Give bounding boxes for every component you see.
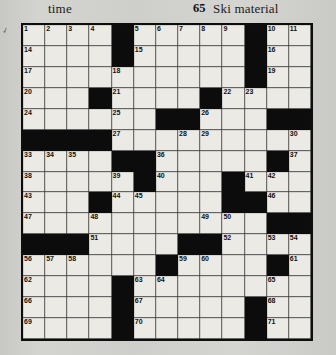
- grid-cell[interactable]: 65: [267, 276, 289, 297]
- grid-cell[interactable]: [289, 276, 311, 297]
- grid-cell[interactable]: [134, 234, 156, 255]
- grid-cell[interactable]: 60: [200, 255, 222, 276]
- grid-cell[interactable]: [178, 318, 200, 339]
- grid-cell[interactable]: 30: [289, 130, 311, 151]
- grid-cell[interactable]: [45, 109, 67, 130]
- grid-cell[interactable]: [45, 88, 67, 109]
- grid-cell[interactable]: 21: [112, 88, 134, 109]
- grid-cell[interactable]: [112, 234, 134, 255]
- grid-cell[interactable]: 34: [45, 151, 67, 172]
- grid-cell[interactable]: [134, 67, 156, 88]
- grid-cell[interactable]: [178, 172, 200, 193]
- grid-cell[interactable]: [222, 67, 244, 88]
- grid-cell[interactable]: 19: [267, 67, 289, 88]
- grid-cell[interactable]: [200, 46, 222, 67]
- grid-cell[interactable]: [67, 276, 89, 297]
- grid-cell[interactable]: [178, 192, 200, 213]
- grid-cell[interactable]: 6: [156, 25, 178, 46]
- grid-cell[interactable]: 63: [134, 276, 156, 297]
- grid-cell[interactable]: 8: [200, 25, 222, 46]
- grid-cell[interactable]: 2: [45, 25, 67, 46]
- grid-cell[interactable]: [89, 255, 111, 276]
- grid-cell[interactable]: [222, 297, 244, 318]
- grid-cell[interactable]: [67, 318, 89, 339]
- grid-cell[interactable]: 58: [67, 255, 89, 276]
- grid-cell[interactable]: [178, 67, 200, 88]
- grid-cell[interactable]: [245, 213, 267, 234]
- grid-cell[interactable]: 10: [267, 25, 289, 46]
- grid-cell[interactable]: 20: [23, 88, 45, 109]
- grid-cell[interactable]: 18: [112, 67, 134, 88]
- grid-cell[interactable]: [200, 297, 222, 318]
- grid-cell[interactable]: [134, 213, 156, 234]
- grid-cell[interactable]: [178, 151, 200, 172]
- grid-cell[interactable]: [89, 276, 111, 297]
- grid-cell[interactable]: [156, 297, 178, 318]
- grid-cell[interactable]: 15: [134, 46, 156, 67]
- grid-cell[interactable]: [245, 234, 267, 255]
- grid-cell[interactable]: 61: [289, 255, 311, 276]
- grid-cell[interactable]: 26: [200, 109, 222, 130]
- grid-cell[interactable]: [222, 255, 244, 276]
- grid-cell[interactable]: 38: [23, 172, 45, 193]
- grid-cell[interactable]: 27: [112, 130, 134, 151]
- grid-cell[interactable]: 48: [89, 213, 111, 234]
- grid-cell[interactable]: 43: [23, 192, 45, 213]
- grid-cell[interactable]: [45, 46, 67, 67]
- grid-cell[interactable]: [134, 130, 156, 151]
- grid-cell[interactable]: [45, 192, 67, 213]
- grid-cell[interactable]: 47: [23, 213, 45, 234]
- grid-cell[interactable]: 25: [112, 109, 134, 130]
- grid-cell[interactable]: [67, 46, 89, 67]
- grid-cell[interactable]: [156, 318, 178, 339]
- grid-cell[interactable]: 70: [134, 318, 156, 339]
- grid-cell[interactable]: [89, 318, 111, 339]
- grid-cell[interactable]: [267, 88, 289, 109]
- grid-cell[interactable]: 17: [23, 67, 45, 88]
- grid-cell[interactable]: [45, 276, 67, 297]
- grid-cell[interactable]: 24: [23, 109, 45, 130]
- grid-cell[interactable]: 28: [178, 130, 200, 151]
- grid-cell[interactable]: [156, 234, 178, 255]
- grid-cell[interactable]: [67, 88, 89, 109]
- grid-cell[interactable]: [45, 172, 67, 193]
- grid-cell[interactable]: [245, 109, 267, 130]
- grid-cell[interactable]: 39: [112, 172, 134, 193]
- grid-cell[interactable]: [178, 276, 200, 297]
- grid-cell[interactable]: 66: [23, 297, 45, 318]
- grid-cell[interactable]: 41: [245, 172, 267, 193]
- grid-cell[interactable]: [67, 109, 89, 130]
- grid-cell[interactable]: [134, 88, 156, 109]
- grid-cell[interactable]: 71: [267, 318, 289, 339]
- grid-cell[interactable]: [89, 67, 111, 88]
- grid-cell[interactable]: [222, 130, 244, 151]
- grid-cell[interactable]: [289, 172, 311, 193]
- grid-cell[interactable]: [245, 151, 267, 172]
- grid-cell[interactable]: [178, 297, 200, 318]
- grid-cell[interactable]: 49: [200, 213, 222, 234]
- grid-cell[interactable]: 14: [23, 46, 45, 67]
- grid-cell[interactable]: 9: [222, 25, 244, 46]
- grid-cell[interactable]: 33: [23, 151, 45, 172]
- grid-cell[interactable]: [134, 255, 156, 276]
- grid-cell[interactable]: [222, 318, 244, 339]
- grid-cell[interactable]: 53: [267, 234, 289, 255]
- grid-cell[interactable]: 45: [134, 192, 156, 213]
- grid-cell[interactable]: [178, 46, 200, 67]
- grid-cell[interactable]: [134, 109, 156, 130]
- grid-cell[interactable]: 3: [67, 25, 89, 46]
- grid-cell[interactable]: [156, 130, 178, 151]
- grid-cell[interactable]: [200, 318, 222, 339]
- grid-cell[interactable]: [222, 46, 244, 67]
- grid-cell[interactable]: [67, 192, 89, 213]
- grid-cell[interactable]: [89, 46, 111, 67]
- grid-cell[interactable]: 46: [267, 192, 289, 213]
- grid-cell[interactable]: 5: [134, 25, 156, 46]
- grid-cell[interactable]: [89, 297, 111, 318]
- grid-cell[interactable]: [45, 213, 67, 234]
- grid-cell[interactable]: 69: [23, 318, 45, 339]
- grid-cell[interactable]: [112, 213, 134, 234]
- grid-cell[interactable]: [89, 151, 111, 172]
- grid-cell[interactable]: [156, 192, 178, 213]
- grid-cell[interactable]: [222, 109, 244, 130]
